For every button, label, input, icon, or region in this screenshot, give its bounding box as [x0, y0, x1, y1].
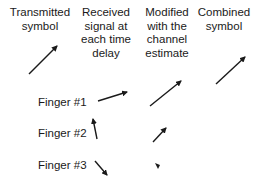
finger-1-received-arrow — [98, 92, 127, 101]
finger-3-modified-arrow — [155, 163, 160, 169]
finger-1-modified-arrow — [150, 81, 181, 106]
transmitted-symbol-arrow — [29, 46, 57, 74]
finger-2-received-arrow — [93, 119, 97, 139]
finger-2-modified-arrow — [153, 128, 166, 142]
phasor-diagram — [0, 0, 260, 183]
finger-3-received-arrow — [95, 161, 107, 175]
combined-symbol-arrow — [216, 57, 245, 84]
